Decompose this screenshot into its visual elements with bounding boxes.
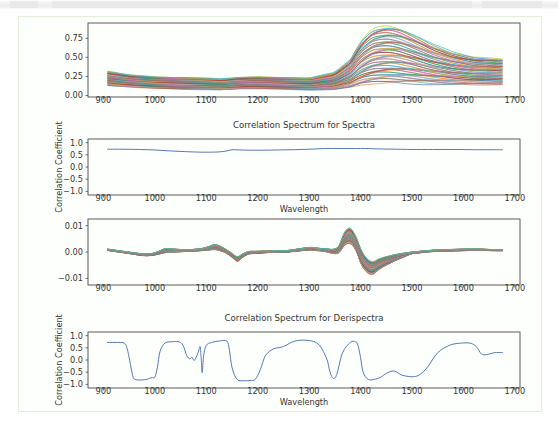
spectrum-line: [108, 239, 503, 270]
spectrum-line: [108, 243, 503, 274]
spectrum-line: [108, 242, 503, 273]
x-tick-label: 1300: [299, 193, 320, 203]
y-tick-label: 1.0: [70, 138, 83, 148]
x-tick-label: 900: [96, 95, 112, 105]
x-tick-label: 1500: [402, 95, 423, 105]
spectrum-line: [108, 241, 503, 272]
x-tick-label: 1100: [196, 193, 217, 203]
y-tick-label: 0.0: [70, 355, 83, 365]
x-tick-label: 1200: [247, 283, 268, 293]
figure-stack: 900100011001200130014001500160017000.000…: [19, 17, 541, 411]
spectrum-line: [108, 230, 503, 263]
y-tick-label: −1.0: [63, 186, 83, 196]
y-tick-label: 0.00: [65, 90, 83, 100]
spectrum-line: [108, 238, 503, 270]
y-tick-label: 0.5: [70, 343, 83, 353]
spectrum-line: [108, 33, 503, 81]
chart-title: Correlation Spectrum for Spectra: [233, 120, 375, 130]
x-tick-label: 1300: [299, 95, 320, 105]
spectrum-line: [108, 229, 503, 263]
spectrum-line: [108, 237, 503, 269]
derivative-spectra-figure: 90010001100120013001400150016001700−0.01…: [19, 211, 541, 315]
spectrum-line: [108, 231, 503, 264]
spectrum-line: [108, 238, 503, 269]
x-tick-label: 1700: [504, 193, 525, 203]
x-tick-label: 1600: [453, 283, 474, 293]
x-tick-label: 900: [96, 283, 112, 293]
spectrum-line: [108, 241, 503, 272]
spectrum-line: [108, 240, 503, 272]
spectrum-line: [108, 243, 503, 274]
y-tick-label: 0.25: [65, 71, 83, 81]
spectrum-line: [108, 238, 503, 270]
y-tick-label: 0.00: [65, 247, 83, 257]
x-tick-label: 1700: [504, 95, 525, 105]
x-tick-label: 1400: [350, 283, 371, 293]
x-tick-label: 1400: [350, 386, 371, 396]
spectrum-line: [108, 228, 503, 262]
chart-title: Correlation Spectrum for Derispectra: [225, 313, 384, 323]
x-tick-label: 1600: [453, 386, 474, 396]
x-tick-label: 1000: [144, 283, 165, 293]
y-tick-label: 0.50: [65, 52, 83, 62]
correlation-spectra-figure: 90010001100120013001400150016001700−1.0−…: [19, 116, 541, 216]
x-tick-label: 900: [96, 193, 112, 203]
y-tick-label: 1.0: [70, 331, 83, 341]
x-tick-label: 1000: [144, 193, 165, 203]
y-tick-label: −0.01: [58, 273, 83, 283]
correlation-spectra-plot[interactable]: 90010001100120013001400150016001700−1.0−…: [19, 116, 541, 216]
spectrum-line: [108, 238, 503, 270]
spectrum-line: [108, 241, 503, 272]
truncated-toolbar-strip: [0, 0, 558, 9]
x-tick-label: 1500: [402, 283, 423, 293]
spectra-series-group: [108, 228, 503, 275]
y-tick-label: −0.5: [63, 174, 83, 184]
correlation-derispectra-plot[interactable]: 90010001100120013001400150016001700−1.0−…: [19, 310, 541, 411]
y-axis-label: Correlation Coefficient: [54, 120, 64, 212]
x-tick-label: 1300: [299, 386, 320, 396]
x-tick-label: 1100: [196, 283, 217, 293]
derivative-spectra-plot[interactable]: 90010001100120013001400150016001700−0.01…: [19, 211, 541, 315]
spectrum-line: [108, 241, 503, 273]
y-tick-label: 0.0: [70, 162, 83, 172]
x-axis-label: Wavelength: [280, 397, 329, 407]
spectrum-line: [108, 239, 503, 270]
y-tick-label: 0.5: [70, 150, 83, 160]
y-tick-label: 0.01: [65, 221, 83, 231]
spectrum-line: [108, 239, 503, 271]
spectrum-line: [108, 240, 503, 271]
x-tick-label: 1000: [144, 386, 165, 396]
spectrum-line: [108, 229, 503, 263]
x-tick-label: 1700: [504, 283, 525, 293]
x-tick-label: 1400: [350, 95, 371, 105]
x-tick-label: 1300: [299, 283, 320, 293]
spectrum-line: [108, 237, 503, 269]
spectrum-line: [108, 42, 503, 82]
correlation-line: [108, 340, 503, 381]
correlation-line: [108, 148, 503, 152]
notebook-output-cell: 900100011001200130014001500160017000.000…: [18, 16, 542, 412]
spectrum-line: [108, 238, 503, 269]
x-tick-label: 1100: [196, 95, 217, 105]
x-tick-label: 1700: [504, 386, 525, 396]
y-tick-label: −0.5: [63, 367, 83, 377]
y-tick-label: 0.75: [65, 33, 83, 43]
spectrum-line: [108, 242, 503, 273]
raw-spectra-plot[interactable]: 900100011001200130014001500160017000.000…: [19, 17, 541, 121]
raw-spectra-figure: 900100011001200130014001500160017000.000…: [19, 17, 541, 121]
x-tick-label: 1500: [402, 386, 423, 396]
spectrum-line: [108, 228, 503, 262]
y-axis-label: Correlation Coefficient: [54, 313, 64, 405]
spectrum-line: [108, 230, 503, 263]
correlation-derispectra-figure: 90010001100120013001400150016001700−1.0−…: [19, 310, 541, 411]
x-tick-label: 1200: [247, 95, 268, 105]
x-tick-label: 1500: [402, 193, 423, 203]
spectrum-line: [108, 240, 503, 272]
x-tick-label: 1600: [453, 95, 474, 105]
x-tick-label: 1400: [350, 193, 371, 203]
x-tick-label: 1600: [453, 193, 474, 203]
x-tick-label: 1000: [144, 95, 165, 105]
spectrum-line: [108, 230, 503, 263]
x-tick-label: 1200: [247, 386, 268, 396]
spectrum-line: [108, 35, 503, 80]
